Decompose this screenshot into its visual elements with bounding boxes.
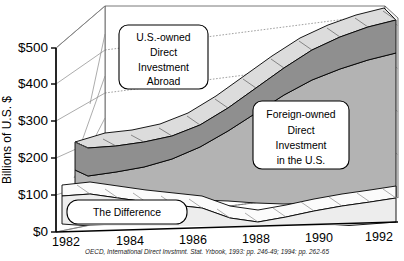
callout-us-owned-line-2: Direct	[150, 47, 177, 58]
callout-difference-label: The Difference	[93, 207, 161, 218]
x-tick-label-1988: 1988	[242, 232, 270, 246]
y-tick-label-400: $400	[18, 76, 48, 91]
x-tick-label-1984: 1984	[116, 234, 144, 248]
callout-us-owned-line-4: Abroad	[147, 76, 181, 87]
callout-foreign-owned-line-4: in the U.S.	[277, 155, 326, 166]
y-tick-label-300: $300	[18, 113, 48, 128]
callout-us-owned-line-3: Investment	[138, 62, 189, 73]
callout-us-owned-line-1: U.S.-owned	[136, 32, 191, 43]
y-tick-label-100: $100	[18, 187, 48, 202]
callout-difference: The Difference	[67, 200, 187, 224]
callout-foreign-owned-line-2: Direct	[287, 125, 314, 136]
chart-3d-investment: $0 $100 $200 $300 $400 $500 Billions of …	[0, 0, 404, 261]
y-tick-label-200: $200	[18, 150, 48, 165]
x-tick-label-1986: 1986	[179, 233, 207, 247]
y-axis-title: Billions of U.S. $	[0, 96, 14, 184]
y-tick-label-500: $500	[18, 40, 48, 55]
x-tick-label-1982: 1982	[52, 235, 80, 249]
x-tick-label-1990: 1990	[305, 231, 333, 245]
callout-foreign-owned: Foreign-owned Direct Investment in the U…	[253, 101, 349, 169]
callout-foreign-owned-line-3: Investment	[276, 140, 327, 151]
y-tick-label-0: $0	[33, 224, 48, 239]
x-tick-label-1992: 1992	[365, 230, 393, 244]
callout-foreign-owned-line-1: Foreign-owned	[266, 109, 336, 120]
source-citation: OECD, International Direct Invstmnt. Sta…	[85, 248, 329, 256]
callout-us-owned: U.S.-owned Direct Investment Abroad	[119, 25, 208, 89]
